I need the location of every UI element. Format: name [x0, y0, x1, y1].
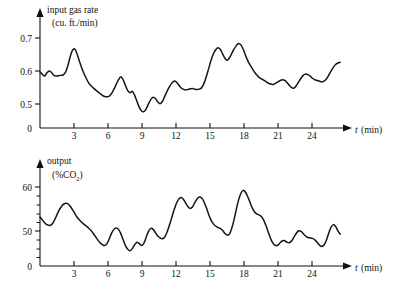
bottom-title-co2-prefix: (%CO: [52, 170, 76, 181]
bottom-x-axis-arrow: [343, 262, 352, 269]
bottom-xtick-label-3: 12: [171, 269, 181, 279]
top-xtick-label-2: 9: [140, 131, 145, 141]
top-ytick-label-2: 0.5: [20, 100, 32, 110]
top-ytick-label-3: 0: [27, 124, 32, 134]
top-ytick-label-0: 0.7: [20, 34, 32, 44]
top-y-ticks: [35, 38, 40, 104]
bottom-xtick-label-4: 15: [205, 269, 215, 279]
figure-svg: 0.7 0.6 0.5 0 3 6 9 12 15 18 21 24 t (mi…: [0, 0, 394, 282]
bottom-xtick-label-1: 6: [106, 269, 111, 279]
bottom-ytick-label-2: 0: [27, 262, 32, 272]
top-xtick-label-4: 15: [205, 131, 215, 141]
input-gas-rate-curve: [40, 43, 340, 111]
bottom-x-ticks: [74, 261, 312, 266]
bottom-xtick-label-2: 9: [140, 269, 145, 279]
top-x-ticks: [74, 123, 312, 128]
bottom-ytick-label-0: 60: [23, 183, 33, 193]
top-x-axis-symbol: t: [355, 125, 358, 135]
panel-output-co2: 60 50 0 3 6 9 12 15 18 21 24 t (min) out…: [23, 156, 383, 279]
top-title-line1: input gas rate: [47, 5, 98, 15]
bottom-ytick-label-1: 50: [23, 227, 33, 237]
top-ytick-label-1: 0.6: [20, 67, 32, 77]
output-co2-curve: [40, 190, 340, 250]
bottom-y-axis-arrow: [36, 159, 43, 168]
top-xtick-label-5: 18: [239, 131, 249, 141]
bottom-x-axis-unit: (min): [361, 263, 382, 274]
panel-input-gas-rate: 0.7 0.6 0.5 0 3 6 9 12 15 18 21 24 t (mi…: [20, 5, 382, 141]
top-x-axis-arrow: [343, 124, 352, 131]
bottom-x-axis-symbol: t: [355, 263, 358, 273]
gas-furnace-figure: 0.7 0.6 0.5 0 3 6 9 12 15 18 21 24 t (mi…: [0, 0, 394, 282]
top-title-line2: (cu. ft./min): [52, 18, 98, 29]
top-xtick-label-3: 12: [171, 131, 181, 141]
top-x-axis-unit: (min): [361, 125, 382, 136]
bottom-xtick-label-5: 18: [239, 269, 249, 279]
bottom-xtick-label-7: 24: [307, 269, 317, 279]
top-xtick-label-0: 3: [72, 131, 77, 141]
top-xtick-label-7: 24: [307, 131, 317, 141]
top-y-axis-arrow: [36, 8, 43, 17]
bottom-xtick-label-6: 21: [273, 269, 283, 279]
bottom-xtick-label-0: 3: [72, 269, 77, 279]
bottom-title-co2-suffix: ): [80, 170, 83, 181]
bottom-title-line2: (%CO2): [52, 170, 83, 182]
top-xtick-label-6: 21: [273, 131, 283, 141]
bottom-title-line1: output: [47, 156, 72, 166]
top-xtick-label-1: 6: [106, 131, 111, 141]
bottom-y-ticks: [35, 187, 40, 258]
